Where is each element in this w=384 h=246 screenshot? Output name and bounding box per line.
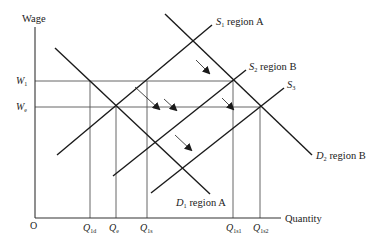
curve-label-S3: S3: [287, 79, 295, 91]
shift-arrow-icon: [196, 60, 209, 73]
y-axis-label: Wage: [22, 13, 46, 24]
curve-label-D1: D1 region A: [175, 197, 226, 209]
guide-lines: W1WeQ1dQeQ1sQ1s1Q1s2: [16, 75, 269, 234]
curve-label-D2: D2 region B: [315, 150, 366, 162]
curve-label-S2: S2 region B: [249, 61, 296, 73]
curve-labels: D1 region AS1 region AD2 region BS2 regi…: [175, 16, 366, 209]
curve-S2: [113, 70, 246, 176]
supply-demand-curves: [55, 14, 312, 194]
curve-S3: [151, 88, 284, 193]
shift-arrow-icon: [164, 99, 176, 110]
shift-arrow-icon: [175, 135, 191, 150]
x-axis-label: Quantity: [285, 213, 322, 224]
quantity-label-Q1d: Q1d: [83, 222, 96, 234]
wage-label-W1: W1: [16, 75, 27, 87]
origin-label: O: [30, 220, 37, 231]
curve-label-S1: S1 region A: [216, 16, 264, 28]
curve-S1: [57, 25, 212, 155]
wage-label-We: We: [16, 101, 27, 113]
quantity-label-Q1s2: Q1s2: [253, 222, 269, 234]
labor-market-diagram: W1WeQ1dQeQ1sQ1s1Q1s2 Wage Quantity O D1 …: [0, 0, 384, 246]
quantity-label-Q1s1: Q1s1: [226, 222, 242, 234]
curve-D1: [55, 48, 210, 194]
quantity-label-Qe: Qe: [109, 222, 119, 234]
quantity-label-Q1s: Q1s: [140, 222, 153, 234]
